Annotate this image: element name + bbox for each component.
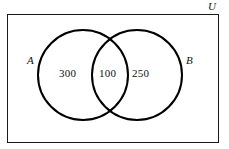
set-a-label: A bbox=[27, 55, 34, 66]
venn-diagram-figure: U A B 300 100 250 bbox=[0, 0, 229, 149]
set-b-label: B bbox=[186, 55, 193, 66]
region-value-b-only: 250 bbox=[132, 68, 149, 79]
region-value-intersection: 100 bbox=[99, 68, 116, 79]
universal-set-label: U bbox=[208, 1, 216, 12]
region-value-a-only: 300 bbox=[59, 68, 76, 79]
